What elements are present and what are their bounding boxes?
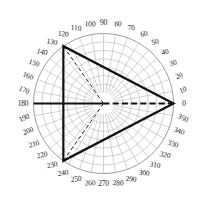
angular-tick-label-310: 310 (149, 160, 161, 169)
angular-tick-label-50: 50 (151, 37, 159, 46)
angular-tick-label-290: 290 (125, 175, 136, 184)
angular-tick-label-330: 330 (167, 139, 179, 149)
angular-tick-label-120: 120 (57, 29, 69, 38)
angular-tick-label-140: 140 (36, 47, 48, 57)
angular-tick-label-180: 180 (18, 100, 29, 108)
angular-tick-label-80: 80 (114, 20, 121, 28)
angular-tick-label-110: 110 (70, 24, 81, 32)
angular-tick-label-100: 100 (84, 20, 95, 28)
angular-tick-label-270: 270 (98, 180, 109, 188)
polar-chart-figure: 0102030405060708090100110120130140150160… (0, 0, 207, 206)
angular-tick-label-130: 130 (46, 37, 58, 46)
angular-tick-label-280: 280 (112, 179, 123, 187)
angular-tick-label-70: 70 (127, 24, 135, 32)
angular-tick-label-250: 250 (70, 175, 81, 184)
polar-plot-canvas (0, 0, 207, 206)
angular-tick-label-60: 60 (140, 30, 148, 38)
angular-tick-label-300: 300 (138, 169, 150, 178)
angular-tick-label-0: 0 (182, 100, 186, 108)
angular-tick-label-240: 240 (57, 169, 69, 178)
angular-tick-label-260: 260 (84, 179, 95, 187)
angular-tick-label-90: 90 (100, 19, 107, 27)
